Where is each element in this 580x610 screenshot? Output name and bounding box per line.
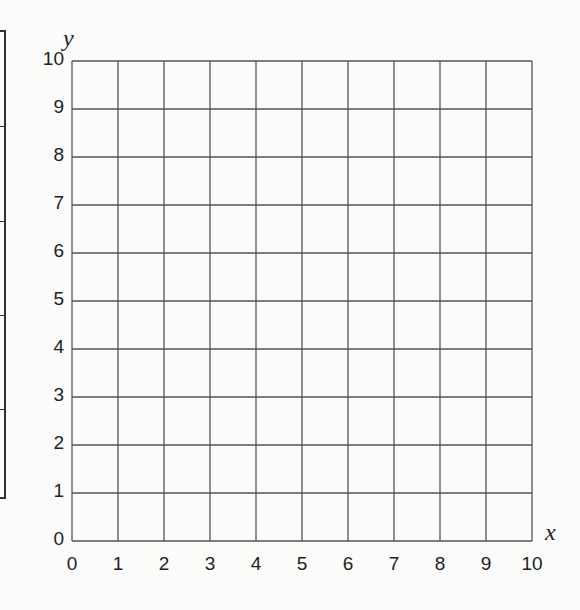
y-axis-title: y [63, 26, 74, 50]
y-tick-label: 5 [34, 289, 64, 308]
x-tick-label: 5 [287, 554, 317, 573]
x-tick-label: 7 [379, 554, 409, 573]
y-tick-label: 0 [34, 529, 64, 548]
y-tick-label: 8 [34, 145, 64, 164]
y-tick-label: 4 [34, 337, 64, 356]
x-tick-label: 1 [103, 554, 133, 573]
x-tick-label: 9 [471, 554, 501, 573]
y-tick-label: 3 [34, 385, 64, 404]
y-tick-label: 2 [34, 433, 64, 452]
x-tick-label: 4 [241, 554, 271, 573]
x-axis-title: x [545, 520, 556, 544]
x-tick-label: 8 [425, 554, 455, 573]
y-tick-label: 10 [34, 49, 64, 68]
y-tick-label: 1 [34, 481, 64, 500]
x-tick-label: 3 [195, 554, 225, 573]
x-tick-label: 10 [517, 554, 547, 573]
coordinate-grid [0, 0, 580, 610]
x-tick-label: 2 [149, 554, 179, 573]
x-tick-label: 0 [57, 554, 87, 573]
y-tick-label: 9 [34, 97, 64, 116]
y-tick-label: 6 [34, 241, 64, 260]
x-tick-label: 6 [333, 554, 363, 573]
y-tick-label: 7 [34, 193, 64, 212]
